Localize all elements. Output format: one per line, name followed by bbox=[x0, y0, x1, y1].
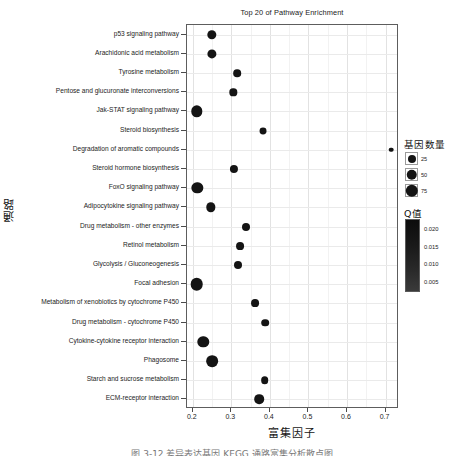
gridline-horizontal bbox=[187, 188, 397, 189]
gridline-vertical bbox=[347, 25, 348, 407]
gridline-vertical-minor bbox=[289, 25, 290, 407]
gene-count-legend-title: 基因数量 bbox=[404, 137, 445, 151]
gridline-vertical bbox=[386, 25, 387, 407]
data-point bbox=[207, 49, 216, 58]
y-axis-tick bbox=[181, 379, 186, 380]
data-point bbox=[206, 203, 215, 212]
figure-caption: 图 3-12 差异表达基因 KEGG 通路富集分析散点图 bbox=[0, 447, 464, 456]
pathway-enrichment-figure: Top 20 of Pathway Enrichment 通路 富集因子 p53… bbox=[0, 0, 464, 456]
gridline-vertical-minor bbox=[366, 25, 367, 407]
gridline-vertical-minor bbox=[212, 25, 213, 407]
y-axis-tick bbox=[181, 302, 186, 303]
data-point bbox=[236, 242, 244, 250]
gridline-horizontal bbox=[187, 399, 397, 400]
y-axis-tick-label: Glycolysis / Gluconeogenesis bbox=[93, 260, 179, 268]
qvalue-legend-title: Q值 bbox=[404, 206, 422, 220]
gridline-vertical-minor bbox=[328, 25, 329, 407]
y-axis-tick-label: Steroid biosynthesis bbox=[120, 126, 179, 134]
data-point bbox=[190, 278, 203, 291]
data-point bbox=[260, 127, 267, 134]
gene-count-legend-key bbox=[405, 168, 418, 181]
x-axis-tick bbox=[307, 408, 308, 412]
x-axis-tick-label: 0.3 bbox=[225, 413, 235, 420]
x-axis-tick bbox=[192, 408, 193, 412]
gene-count-legend-dot bbox=[406, 169, 416, 179]
y-axis-tick-label: Metabolism of xenobiotics by cytochrome … bbox=[41, 298, 179, 306]
data-point bbox=[261, 319, 269, 327]
data-point bbox=[230, 89, 237, 96]
y-axis-tick bbox=[181, 34, 186, 35]
gridline-horizontal bbox=[187, 284, 397, 285]
gridline-horizontal bbox=[187, 54, 397, 55]
gridline-horizontal bbox=[187, 265, 397, 266]
y-axis-tick bbox=[181, 398, 186, 399]
gridline-horizontal bbox=[187, 111, 397, 112]
y-axis-tick bbox=[181, 130, 186, 131]
plot-panel bbox=[186, 24, 398, 408]
x-axis-tick-label: 0.6 bbox=[341, 413, 351, 420]
gridline-horizontal bbox=[187, 169, 397, 170]
gridline-vertical bbox=[231, 25, 232, 407]
data-point bbox=[230, 165, 238, 173]
y-axis-tick bbox=[181, 53, 186, 54]
gene-count-legend-key bbox=[405, 184, 418, 197]
data-point bbox=[242, 223, 250, 231]
gene-count-legend-label: 50 bbox=[421, 172, 427, 178]
y-axis-tick bbox=[181, 322, 186, 323]
data-point bbox=[192, 183, 203, 194]
gene-count-legend-label: 75 bbox=[421, 188, 427, 194]
gridline-horizontal bbox=[187, 35, 397, 36]
y-axis-tick bbox=[181, 283, 186, 284]
gridline-horizontal bbox=[187, 227, 397, 228]
gene-count-legend-dot bbox=[405, 184, 417, 196]
gene-count-legend-dot bbox=[408, 155, 416, 163]
y-axis-tick-label: Phagosome bbox=[144, 356, 179, 364]
y-axis-tick bbox=[181, 149, 186, 150]
gridline-horizontal bbox=[187, 323, 397, 324]
y-axis-tick bbox=[181, 72, 186, 73]
y-axis-tick-label: Focal adhesion bbox=[134, 279, 179, 287]
qvalue-colorbar-tick-label: 0.005 bbox=[424, 279, 439, 285]
data-point bbox=[233, 69, 241, 77]
y-axis-tick bbox=[181, 360, 186, 361]
x-axis-tick bbox=[385, 408, 386, 412]
y-axis-tick-label: FoxO signaling pathway bbox=[109, 183, 179, 191]
y-axis-title: 通路 bbox=[2, 198, 18, 222]
gridline-horizontal bbox=[187, 131, 397, 132]
y-axis-tick-label: ECM-receptor interaction bbox=[106, 394, 179, 402]
gene-count-legend-label: 25 bbox=[421, 156, 427, 162]
x-axis-title: 富集因子 bbox=[186, 424, 398, 440]
y-axis-tick bbox=[181, 206, 186, 207]
y-axis-tick-label: Jak-STAT signaling pathway bbox=[97, 106, 179, 114]
gridline-vertical bbox=[308, 25, 309, 407]
y-axis-tick-label: Adipocytokine signaling pathway bbox=[84, 202, 179, 210]
plot-title: Top 20 of Pathway Enrichment bbox=[186, 8, 398, 17]
y-axis-tick-label: Drug metabolism - cytochrome P450 bbox=[72, 318, 179, 326]
qvalue-colorbar-tick-label: 0.010 bbox=[424, 261, 439, 267]
x-axis-tick bbox=[346, 408, 347, 412]
y-axis-tick bbox=[181, 91, 186, 92]
y-axis-tick-label: Degradation of aromatic compounds bbox=[73, 145, 179, 153]
x-axis-tick-label: 0.4 bbox=[264, 413, 274, 420]
data-point bbox=[207, 30, 216, 39]
data-point bbox=[206, 355, 218, 367]
data-point bbox=[261, 376, 269, 384]
data-point bbox=[255, 395, 265, 405]
y-axis-tick-label: Steroid hormone biosynthesis bbox=[92, 164, 179, 172]
data-point bbox=[389, 147, 394, 152]
y-axis-tick bbox=[181, 245, 186, 246]
x-axis-tick-label: 0.2 bbox=[187, 413, 197, 420]
y-axis-tick-label: Tyrosine metabolism bbox=[119, 68, 179, 76]
gridline-horizontal bbox=[187, 361, 397, 362]
gridline-horizontal bbox=[187, 303, 397, 304]
y-axis-tick-label: p53 signaling pathway bbox=[114, 30, 179, 38]
y-axis-tick bbox=[181, 110, 186, 111]
y-axis-tick-label: Retinol metabolism bbox=[123, 241, 179, 249]
y-axis-tick-label: Arachidonic acid metabolism bbox=[95, 49, 179, 57]
y-axis-tick-label: Cytokine-cytokine receptor interaction bbox=[69, 337, 179, 345]
x-axis-tick-label: 0.7 bbox=[380, 413, 390, 420]
gene-count-legend-key bbox=[405, 152, 418, 165]
gridline-vertical-minor bbox=[251, 25, 252, 407]
gridline-horizontal bbox=[187, 150, 397, 151]
y-axis-tick bbox=[181, 341, 186, 342]
